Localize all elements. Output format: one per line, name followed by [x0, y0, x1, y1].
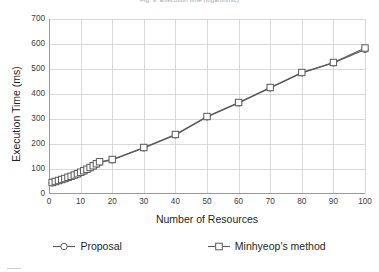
page-rule	[7, 268, 21, 269]
figure-caption: Fig. 9. Execution time (logarithmic)	[0, 0, 379, 4]
x-tick-label: 0	[36, 197, 62, 206]
square-marker	[109, 156, 115, 162]
legend-item-proposal[interactable]: Proposal	[53, 240, 121, 252]
figure-container: Fig. 9. Execution time (logarithmic) Exe…	[0, 0, 379, 272]
x-tick-label: 40	[162, 197, 188, 206]
y-tick-label: 500	[15, 65, 45, 73]
y-tick-label: 100	[15, 165, 45, 173]
square-marker	[299, 69, 305, 75]
y-tick-label: 600	[15, 40, 45, 48]
circle-marker	[53, 241, 75, 252]
x-axis-title: Number of Resources	[49, 213, 365, 225]
square-marker	[235, 99, 241, 105]
square-marker	[141, 144, 147, 150]
x-tick-label: 80	[289, 197, 315, 206]
x-tick-label: 90	[320, 197, 346, 206]
x-tick-label: 20	[99, 197, 125, 206]
x-tick-label: 30	[131, 197, 157, 206]
x-tick-label: 60	[226, 197, 252, 206]
legend-label: Proposal	[80, 240, 121, 252]
square-marker	[362, 45, 368, 51]
legend-item-minhyeop[interactable]: Minhyeop's method	[208, 240, 326, 252]
square-marker	[172, 131, 178, 137]
square-marker	[96, 159, 102, 165]
y-tick-label: 200	[15, 140, 45, 148]
plot-area: 0100200300400500600700010203040506070809…	[49, 19, 365, 194]
series-layer	[49, 19, 365, 194]
square-marker	[204, 113, 210, 119]
square-marker	[208, 241, 230, 252]
x-tick-label: 50	[194, 197, 220, 206]
square-marker	[267, 84, 273, 90]
square-marker	[330, 59, 336, 65]
y-tick-label: 700	[15, 15, 45, 23]
legend-label: Minhyeop's method	[235, 240, 326, 252]
x-tick-label: 100	[352, 197, 378, 206]
x-tick-label: 70	[257, 197, 283, 206]
y-tick-label: 400	[15, 90, 45, 98]
series-minhyeop	[49, 45, 368, 186]
x-tick-label: 10	[68, 197, 94, 206]
y-tick-label: 300	[15, 115, 45, 123]
chart-legend: ProposalMinhyeop's method	[0, 240, 379, 252]
